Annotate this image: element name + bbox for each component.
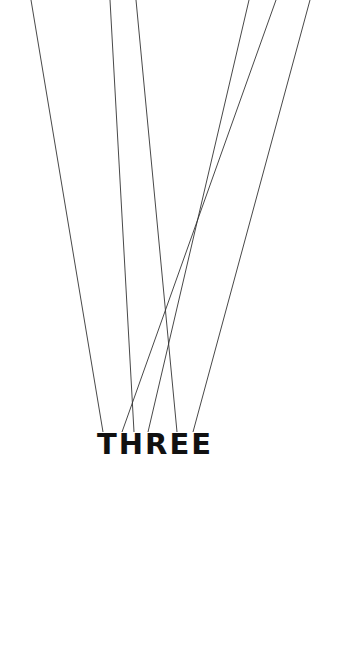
line-6 — [193, 0, 310, 432]
poster-canvas: THREE — [0, 0, 344, 648]
converging-lines — [0, 0, 344, 648]
line-5 — [122, 0, 276, 432]
line-4 — [148, 0, 249, 432]
line-3 — [136, 0, 177, 432]
title-text: THREE — [97, 428, 207, 460]
line-1 — [31, 0, 103, 432]
line-2 — [110, 0, 134, 432]
